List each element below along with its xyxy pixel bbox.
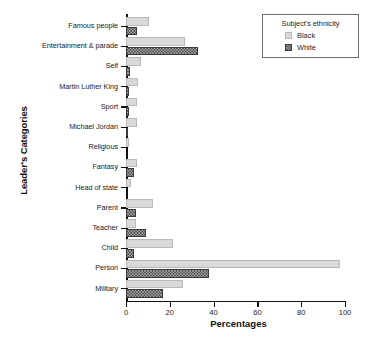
chart-row: Self <box>126 56 345 76</box>
bar-black <box>126 219 136 228</box>
bar-black <box>126 138 129 147</box>
legend-label-black: Black <box>297 31 315 40</box>
x-axis-tick <box>214 302 215 307</box>
bar-white <box>126 128 128 137</box>
bar-white <box>126 107 129 116</box>
bar-chart-figure: Leader's Categories Famous peopleEnterta… <box>0 0 373 341</box>
legend-swatch-black <box>285 32 292 39</box>
x-axis-tick <box>301 302 302 307</box>
chart-row: Martin Luther King <box>126 77 345 97</box>
bar-white <box>126 289 163 298</box>
bar-black <box>126 17 149 26</box>
bar-black <box>126 199 153 208</box>
legend: Subject's ethnicity Black White <box>262 14 359 58</box>
y-axis-tick-label: Michael Jordan <box>69 122 118 131</box>
bar-black <box>126 57 141 66</box>
chart-row: Sport <box>126 97 345 117</box>
y-axis-tick-label: Teacher <box>92 223 118 232</box>
bar-black <box>126 159 137 168</box>
legend-swatch-white <box>285 44 292 51</box>
bar-black <box>126 98 137 107</box>
y-axis-tick <box>121 187 126 188</box>
y-axis-tick-label: Military <box>95 284 118 293</box>
chart-row: Fantasy <box>126 158 345 178</box>
y-axis-tick-label: Fantasy <box>92 162 118 171</box>
chart-row: Religious <box>126 137 345 157</box>
chart-row: Head of state <box>126 178 345 198</box>
y-axis-tick-label: Parent <box>97 203 118 212</box>
bar-white <box>126 249 134 258</box>
bar-white <box>126 87 129 96</box>
x-axis-tick-label: 80 <box>297 308 305 317</box>
bar-black <box>126 78 138 87</box>
bar-black <box>126 280 183 289</box>
x-axis-tick-label: 60 <box>253 308 261 317</box>
x-axis-tick <box>345 302 346 307</box>
x-axis-tick-label: 40 <box>209 308 217 317</box>
bar-black <box>126 118 137 127</box>
bar-black <box>126 179 131 188</box>
bar-white <box>126 269 209 278</box>
legend-title: Subject's ethnicity <box>269 19 352 28</box>
y-axis-tick-label: Martin Luther King <box>59 82 118 91</box>
bar-black <box>126 260 340 269</box>
y-axis-label: Leader's Categories <box>18 71 29 231</box>
x-axis-tick <box>170 302 171 307</box>
y-axis-tick-label: Sport <box>101 102 118 111</box>
chart-row: Child <box>126 238 345 258</box>
y-axis-tick-label: Person <box>95 263 118 272</box>
legend-item-black: Black <box>269 31 352 40</box>
y-axis-tick-label: Religious <box>88 142 118 151</box>
legend-item-white: White <box>269 43 352 52</box>
y-axis-tick-label: Self <box>106 61 118 70</box>
x-axis-label: Percentages <box>0 318 373 329</box>
y-axis-tick <box>121 147 126 148</box>
chart-row: Michael Jordan <box>126 117 345 137</box>
chart-row: Military <box>126 279 345 299</box>
x-axis-tick-label: 20 <box>166 308 174 317</box>
x-axis-tick-label: 0 <box>124 308 128 317</box>
y-axis-tick-label: Entertainment & parade <box>42 41 118 50</box>
bar-white <box>126 229 146 238</box>
bar-black <box>126 239 173 248</box>
bar-black <box>126 37 185 46</box>
x-axis-tick <box>257 302 258 307</box>
bar-white <box>126 47 198 56</box>
x-axis-tick <box>126 302 127 307</box>
bar-white <box>126 209 136 218</box>
y-axis-tick-label: Head of state <box>75 183 118 192</box>
caption-remnant <box>14 332 359 338</box>
bar-white <box>126 27 137 36</box>
chart-row: Parent <box>126 198 345 218</box>
bar-white <box>126 67 130 76</box>
y-axis-tick-label: Famous people <box>68 21 118 30</box>
legend-label-white: White <box>297 43 316 52</box>
bar-white <box>126 168 134 177</box>
x-axis-tick-label: 100 <box>339 308 352 317</box>
y-axis-tick-label: Child <box>102 243 118 252</box>
plot-area: Famous peopleEntertainment & paradeSelfM… <box>126 16 345 299</box>
chart-row: Teacher <box>126 218 345 238</box>
chart-row: Person <box>126 259 345 279</box>
